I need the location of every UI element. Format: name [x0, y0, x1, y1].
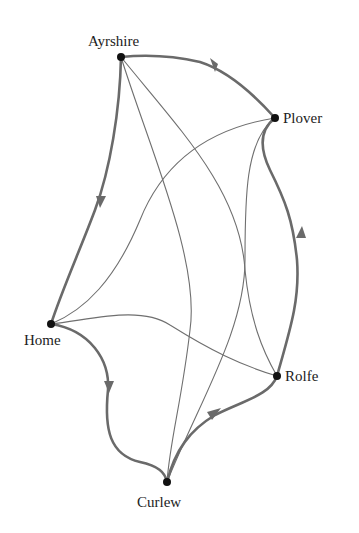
- tour-edge-curlew-rolfe: [167, 376, 277, 482]
- label-curlew: Curlew: [137, 495, 181, 510]
- tour-edge-plover-ayrshire: [121, 56, 275, 118]
- tour-edge-rolfe-plover: [263, 118, 298, 376]
- node-ayrshire: [117, 53, 125, 61]
- tour-edge-ayrshire-home: [51, 57, 121, 324]
- node-curlew: [163, 478, 171, 486]
- tour-edge-home-curlew: [51, 324, 167, 482]
- label-rolfe: Rolfe: [285, 369, 318, 384]
- node-home: [47, 320, 55, 328]
- node-rolfe: [273, 372, 281, 380]
- tour-graph: [0, 0, 359, 533]
- label-plover: Plover: [283, 111, 322, 126]
- edge-ayrshire-rolfe: [121, 57, 277, 376]
- edge-home-rolfe: [51, 315, 277, 376]
- label-ayrshire: Ayrshire: [88, 34, 139, 49]
- edge-plover-curlew: [167, 118, 275, 482]
- label-home: Home: [24, 333, 61, 348]
- arrow-icon-home-curlew: [104, 381, 114, 393]
- arrow-icon-rolfe-plover: [296, 226, 306, 238]
- node-plover: [271, 114, 279, 122]
- edge-ayrshire-curlew: [121, 57, 191, 482]
